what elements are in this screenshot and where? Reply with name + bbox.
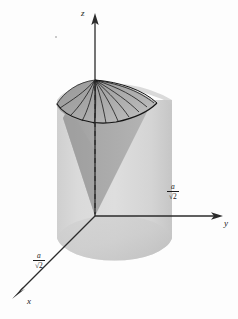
x-radius-denominator: √2 [33,262,45,270]
y-radius-denominator: √2 [167,193,179,201]
z-axis-label: z [81,9,85,18]
x-axis-radius-label: a √2 [33,252,45,270]
geometry-illustration [0,0,238,319]
y-radius-numerator: a [167,183,179,191]
x-radius-numerator: a [33,252,45,260]
figure-root: z y x a √2 a √2 [0,0,238,319]
x-axis-label: x [27,297,31,306]
y-axis-radius-label: a √2 [167,183,179,201]
page-speck [55,36,57,38]
y-axis-label: y [224,219,228,228]
